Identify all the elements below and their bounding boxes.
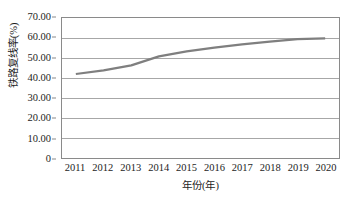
- x-axis-tick-label: 2018: [260, 163, 281, 174]
- plot-area: [61, 17, 340, 159]
- x-axis-tick-label: 2013: [120, 163, 141, 174]
- y-axis-tick-mark: [52, 118, 56, 119]
- x-axis-tick-label: 2017: [232, 163, 253, 174]
- y-axis-tick-label: 60.00: [27, 32, 51, 43]
- y-axis-tick-label: 10.00: [27, 133, 51, 144]
- y-axis-tick-label: 0: [46, 154, 51, 165]
- x-axis-tick-label: 2014: [148, 163, 169, 174]
- x-axis-tick-label: 2020: [316, 163, 337, 174]
- y-axis-tick-label: 40.00: [27, 73, 51, 84]
- y-axis-tick-label: 50.00: [27, 52, 51, 63]
- y-axis-tick-mark: [52, 37, 56, 38]
- y-axis-tick-mark: [52, 159, 56, 160]
- x-axis-tick-label: 2012: [92, 163, 113, 174]
- x-axis-tick-label: 2019: [288, 163, 309, 174]
- y-axis-tick-mark: [52, 98, 56, 99]
- y-axis-tick-label: 20.00: [27, 113, 51, 124]
- x-axis-tick-label: 2016: [204, 163, 225, 174]
- x-axis-tick-label: 2015: [176, 163, 197, 174]
- y-axis-tick-labels: 010.0020.0030.0040.0050.0060.0070.00: [0, 17, 56, 159]
- y-axis-tick-mark: [52, 77, 56, 78]
- y-axis-tick-label: 30.00: [27, 93, 51, 104]
- x-axis-tick-labels: 2011201220132014201520162017201820192020: [61, 163, 340, 177]
- line-chart: 铁路复线率(%) 010.0020.0030.0040.0050.0060.00…: [0, 0, 353, 206]
- y-axis-tick-mark: [52, 138, 56, 139]
- x-axis-tick-label: 2011: [65, 163, 86, 174]
- series-line: [62, 18, 339, 158]
- y-axis-tick-mark: [52, 17, 56, 18]
- y-axis-tick-mark: [52, 57, 56, 58]
- y-axis-tick-label: 70.00: [27, 12, 51, 23]
- x-axis-title: 年份(年): [61, 181, 340, 192]
